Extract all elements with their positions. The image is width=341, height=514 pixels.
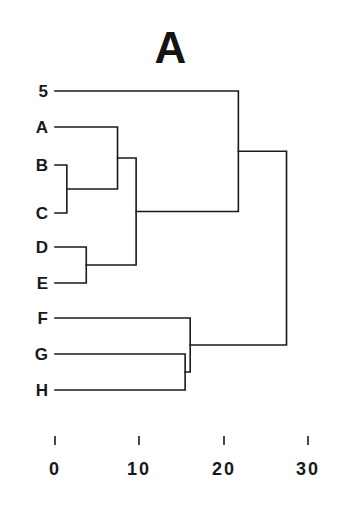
dendrogram-link-n4: [86, 158, 136, 265]
dendrogram-link-n3: [55, 127, 118, 189]
leaf-label-D: D: [22, 239, 48, 256]
dendrogram-links-group: [55, 91, 287, 390]
dendrogram-link-n5: [55, 354, 185, 390]
leaf-label-E: E: [22, 275, 48, 292]
dendrogram-link-n2: [55, 247, 86, 283]
leaf-label-F: F: [22, 310, 48, 327]
axis-tick-label-20: 20: [202, 460, 246, 478]
axis-tick-label-30: 30: [286, 460, 330, 478]
leaf-label-C: C: [22, 205, 48, 222]
axis-tick-label-10: 10: [117, 460, 161, 478]
dendrogram-plot: [0, 0, 341, 514]
leaf-label-5: 5: [22, 83, 48, 100]
dendrogram-figure: A 5ABCDEFGH 0102030: [0, 0, 341, 514]
dendrogram-link-n6: [55, 318, 190, 372]
axis-tick-label-0: 0: [33, 460, 77, 478]
leaf-label-H: H: [22, 382, 48, 399]
dendrogram-link-n7: [55, 91, 238, 212]
leaf-label-B: B: [22, 157, 48, 174]
dendrogram-link-n1: [55, 165, 67, 213]
axis-tick-group: [55, 436, 308, 445]
leaf-label-G: G: [22, 346, 48, 363]
leaf-label-A: A: [22, 119, 48, 136]
